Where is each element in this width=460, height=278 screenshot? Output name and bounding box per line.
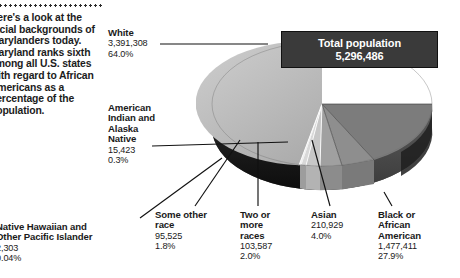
callout-native-hawaiian-pacific-islander: Native Hawaiian and Other Pacific Island… <box>0 222 146 263</box>
intro-paragraph: Here's a look at the racial backgrounds … <box>0 12 108 116</box>
callout-some-other-number: 95,525 <box>155 231 227 241</box>
callout-white: White 3,391,308 64.0% <box>108 28 178 59</box>
pie-rim-nhpi <box>300 165 306 190</box>
callout-two-more-number: 103,587 <box>240 241 296 251</box>
callout-nhpi-percent: 0.04% <box>0 253 146 263</box>
callout-aian-percent: 0.3% <box>108 155 170 165</box>
callout-two-more-percent: 2.0% <box>240 251 296 261</box>
callout-asian-title: Asian <box>311 210 373 220</box>
callout-aian-title-4: Native <box>108 134 170 144</box>
total-population-box: Total population 5,296,486 <box>281 31 438 68</box>
callout-some-other-percent: 1.8% <box>155 241 227 251</box>
callout-white-number: 3,391,308 <box>108 38 178 48</box>
callout-american-indian-alaska-native: American Indian and Alaska Native 15,423… <box>108 103 170 165</box>
callout-asian-number: 210,929 <box>311 220 373 230</box>
callout-white-percent: 64.0% <box>108 49 178 59</box>
callout-nhpi-number: 2,303 <box>0 243 146 253</box>
dotted-rule-decoration <box>0 4 104 7</box>
callout-asian: Asian 210,929 4.0% <box>311 210 373 241</box>
total-population-label: Total population <box>318 37 401 50</box>
pie-rim-two-more <box>320 165 342 190</box>
callout-two-more-title-3: races <box>240 231 296 241</box>
callout-some-other-race: Some other race 95,525 1.8% <box>155 210 227 251</box>
callout-black-title-3: American <box>378 231 452 241</box>
total-population-value: 5,296,486 <box>335 50 383 63</box>
callout-two-or-more-races: Two or more races 103,587 2.0% <box>240 210 296 262</box>
callout-nhpi-title-2: Other Pacific Islander <box>0 232 146 242</box>
callout-black-percent: 27.9% <box>378 251 452 261</box>
callout-white-title: White <box>108 28 178 38</box>
callout-black-number: 1,477,411 <box>378 241 452 251</box>
callout-aian-number: 15,423 <box>108 145 170 155</box>
pie-rim-some-other <box>306 166 320 191</box>
callout-black-african-american: Black or African American 1,477,411 27.9… <box>378 210 452 262</box>
callout-asian-percent: 4.0% <box>311 231 373 241</box>
callout-some-other-title-2: race <box>155 220 227 230</box>
